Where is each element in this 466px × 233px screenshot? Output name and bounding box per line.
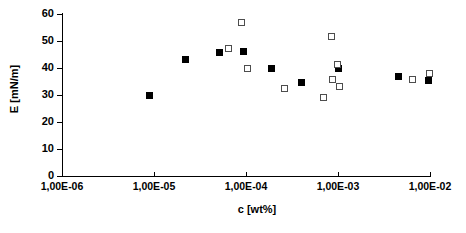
y-tick-label-30: 30 — [20, 89, 54, 100]
data-point-open-squares-10 — [426, 70, 433, 77]
data-point-filled-squares-8 — [425, 77, 432, 84]
y-tick-label-50: 50 — [20, 35, 54, 46]
x-tick-1e-2 — [430, 172, 431, 177]
x-tick-label-1e-6: 1,00E-06 — [22, 181, 102, 192]
x-tick-label-1e-3: 1,00E-03 — [298, 181, 378, 192]
data-point-filled-squares-7 — [395, 73, 402, 80]
x-tick-label-1e-4: 1,00E-04 — [206, 181, 286, 192]
data-point-filled-squares-2 — [216, 49, 223, 56]
data-point-filled-squares-4 — [268, 65, 275, 72]
x-tick-label-1e-5: 1,00E-05 — [114, 181, 194, 192]
data-point-filled-squares-3 — [240, 48, 247, 55]
data-point-filled-squares-0 — [146, 92, 153, 99]
x-tick-label-1e-2: 1,00E-02 — [390, 181, 466, 192]
x-tick-label-1e-2-wrap: 1,00E-02 — [390, 181, 466, 195]
y-tick-label-10-wrap: 10 — [20, 143, 54, 155]
data-point-filled-squares-1 — [182, 56, 189, 63]
y-tick-label-50-wrap: 50 — [20, 35, 54, 47]
y-tick-label-60: 60 — [20, 8, 54, 19]
y-tick-label-40: 40 — [20, 62, 54, 73]
y-tick-label-20-wrap: 20 — [20, 116, 54, 128]
y-tick-label-40-wrap: 40 — [20, 62, 54, 74]
data-point-open-squares-9 — [409, 76, 416, 83]
data-point-open-squares-5 — [328, 33, 335, 40]
data-point-open-squares-7 — [334, 61, 341, 68]
x-tick-label-1e-6-wrap: 1,00E-06 — [22, 181, 102, 195]
y-tick-label-20: 20 — [20, 116, 54, 127]
y-tick-label-10: 10 — [20, 143, 54, 154]
data-point-open-squares-2 — [244, 65, 251, 72]
chart-container: E [mN/m] 0 10 20 30 40 50 60 1,00E-06 1,… — [0, 0, 466, 233]
data-point-filled-squares-5 — [298, 79, 305, 86]
data-point-open-squares-1 — [238, 19, 245, 26]
x-tick-label-1e-4-wrap: 1,00E-04 — [206, 181, 286, 195]
x-axis-title: c [wt%] — [0, 203, 466, 215]
data-point-open-squares-3 — [281, 85, 288, 92]
y-tick-label-60-wrap: 60 — [20, 8, 54, 20]
x-axis-title-text: c [wt%] — [238, 203, 277, 215]
data-point-open-squares-6 — [329, 76, 336, 83]
data-point-open-squares-4 — [320, 94, 327, 101]
y-axis-title-text: E [mN/m] — [8, 65, 20, 113]
data-point-open-squares-0 — [225, 45, 232, 52]
x-tick-label-1e-5-wrap: 1,00E-05 — [114, 181, 194, 195]
y-tick-label-30-wrap: 30 — [20, 89, 54, 101]
plot-area — [62, 14, 430, 176]
x-tick-label-1e-3-wrap: 1,00E-03 — [298, 181, 378, 195]
data-point-open-squares-8 — [336, 83, 343, 90]
